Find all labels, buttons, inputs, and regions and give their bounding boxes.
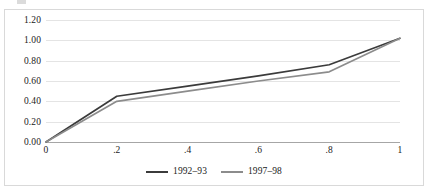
chart-legend: 1992–931997–98 <box>0 166 428 177</box>
legend-line-swatch <box>146 171 168 173</box>
y-axis-tick-label: 1.00 <box>24 35 41 45</box>
x-axis-line <box>46 142 400 143</box>
y-axis-tick-label: 0.20 <box>24 117 41 127</box>
y-axis-tick-label: 0.60 <box>24 76 41 86</box>
legend-item[interactable]: 1992–93 <box>146 166 207 177</box>
y-axis-tick-label: 0.00 <box>24 137 41 147</box>
line-chart: 0.000.200.400.600.801.001.20 0.2.4.6.81 … <box>0 0 428 192</box>
x-axis-tick-label: 1 <box>398 145 403 156</box>
plot-area <box>46 20 400 142</box>
x-axis-tick-label: .4 <box>184 145 191 156</box>
y-axis-labels: 0.000.200.400.600.801.001.20 <box>0 20 41 142</box>
x-axis-tick-label: 0 <box>44 145 49 156</box>
legend-line-swatch <box>221 171 243 173</box>
legend-label: 1997–98 <box>248 166 282 177</box>
series-line <box>46 38 400 142</box>
x-axis-tick-label: .6 <box>255 145 262 156</box>
x-axis-labels: 0.2.4.6.81 <box>46 145 400 159</box>
x-axis-tick-label: .2 <box>113 145 120 156</box>
cropped-text-artifact <box>17 0 26 4</box>
y-axis-tick-label: 1.20 <box>24 15 41 25</box>
x-axis-tick-label: .8 <box>326 145 333 156</box>
series-lines <box>46 20 400 142</box>
series-line <box>46 38 400 142</box>
y-axis-tick-label: 0.80 <box>24 56 41 66</box>
legend-label: 1992–93 <box>173 166 207 177</box>
y-axis-tick-label: 0.40 <box>24 96 41 106</box>
legend-item[interactable]: 1997–98 <box>221 166 282 177</box>
